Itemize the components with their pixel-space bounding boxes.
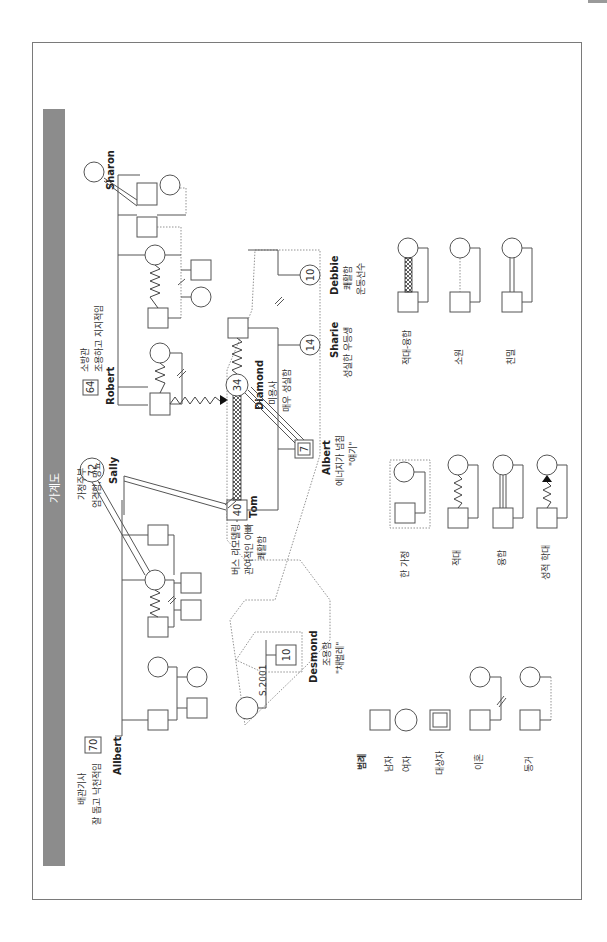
legend-divorce-icon — [470, 710, 490, 730]
legend-fused-icon — [493, 455, 513, 475]
legend-title: 범례 — [356, 754, 367, 770]
diamond-name: Diamond — [254, 360, 265, 410]
tom-role: 관여적인 아빠 — [243, 524, 254, 575]
sharie-name: Sharie — [329, 322, 340, 358]
desmond-trait: 조용함 — [322, 642, 332, 666]
albert-trait: 에너지가 넘침 — [335, 435, 345, 486]
sharie-trait: 성실한 우등생 — [343, 327, 353, 378]
legend-label-abuse: 성적 학대 — [540, 545, 551, 580]
robert-sister-female — [145, 245, 165, 265]
legend-label-male: 남자 — [384, 755, 394, 772]
allbert-occupation: 배관기사 — [77, 772, 87, 805]
sharon-partner-female — [160, 175, 180, 195]
tom-trait: 쾌활함 — [256, 536, 267, 560]
robert-sister-husband-male — [148, 308, 168, 328]
tom-age: 40 — [232, 504, 243, 517]
sibling-male-top — [148, 525, 168, 545]
legend: 범례 남자 여자 대상자 이혼 동거 — [356, 238, 567, 775]
sally-occupation: 가정주부 — [77, 468, 87, 500]
legend-label-index: 대상자 — [435, 750, 445, 775]
diamond-partner-male — [228, 318, 248, 338]
legend-cohabit-icon — [520, 710, 540, 730]
desmond-mother-symbol — [236, 697, 258, 719]
sibling-spouse-female — [148, 657, 168, 677]
legend-label-close: 친밀 — [505, 349, 516, 365]
legend-label-household: 한 가정 — [400, 551, 410, 578]
diamond-trait: 매우 성실함 — [282, 369, 292, 412]
separation-label: S.2001 — [258, 665, 268, 696]
legend-abuse-icon — [537, 455, 557, 475]
legend-label-distant: 소원 — [454, 349, 464, 365]
robert-name: Robert — [105, 367, 116, 405]
genogram-diagram: 70 Allbert 배관기사 잘 돕고 낙천적임 72 Sally 가정주부 … — [0, 0, 607, 942]
sharon-name: Sharon — [105, 150, 116, 190]
legend-distant-icon — [450, 238, 470, 258]
cousin-male-1 — [181, 573, 201, 593]
tom-occupation: 버스 리모델링 — [230, 524, 241, 575]
legend-label-hostile: 적대 — [451, 550, 462, 566]
robert-niece-male — [191, 260, 211, 280]
robert-traits: 조용하고 지지적임 — [93, 305, 104, 372]
robert-niece-female — [191, 287, 211, 307]
legend-label-female: 여자 — [401, 755, 412, 772]
legend-close-icon — [502, 238, 522, 258]
desmond-name: Desmond — [308, 630, 319, 683]
debbie-age: 10 — [305, 269, 316, 282]
robert-symbol-large — [150, 393, 170, 415]
allbert-traits: 잘 돕고 낙천적임 — [91, 763, 102, 825]
robert-wife-female — [150, 343, 170, 363]
legend-female-icon — [395, 709, 417, 731]
legend-hostile-icon — [448, 455, 468, 475]
desmond-age: 10 — [281, 649, 292, 662]
sibling-male — [148, 710, 168, 730]
diamond-age: 34 — [232, 379, 243, 392]
albert-nickname: "얘기" — [348, 442, 358, 466]
legend-hostile-fused-icon — [398, 238, 418, 258]
nephew — [187, 698, 207, 718]
legend-label-divorce: 이혼 — [473, 754, 484, 770]
sharon-spouse-male — [137, 183, 157, 205]
sibling-female — [145, 570, 165, 590]
legend-male-icon — [370, 710, 390, 730]
robert-age: 64 — [85, 381, 96, 394]
robert-sister-partner-male — [137, 217, 157, 237]
albert-name: Albert — [321, 440, 332, 475]
tom-diamond-hostile-fused — [233, 395, 241, 500]
cousin-male-2 — [181, 600, 201, 620]
allbert-name: Allbert — [112, 737, 123, 775]
debbie-role: 운동선수 — [356, 263, 366, 295]
legend-label-cohabit: 동거 — [524, 756, 534, 772]
albert-age: 7 — [299, 446, 310, 452]
desmond-nickname: "채벌레" — [335, 642, 345, 674]
sharie-age: 14 — [305, 339, 316, 352]
sibling-husband — [148, 617, 168, 637]
sharon-symbol — [84, 162, 104, 182]
niece — [187, 667, 207, 687]
sally-name: Sally — [108, 456, 119, 484]
legend-label-hostile-fused: 적대-융합 — [401, 330, 412, 365]
legend-label-fused: 융합 — [497, 550, 507, 566]
tom-name: Tom — [248, 495, 259, 518]
genogram-page: 가계도 — [0, 0, 607, 942]
diamond-occupation: 미용사 — [268, 380, 278, 405]
debbie-name: Debbie — [329, 255, 340, 295]
robert-occupation: 소방관 — [80, 348, 90, 372]
allbert-age: 70 — [88, 739, 99, 752]
debbie-trait: 쾌활함 — [342, 266, 353, 290]
